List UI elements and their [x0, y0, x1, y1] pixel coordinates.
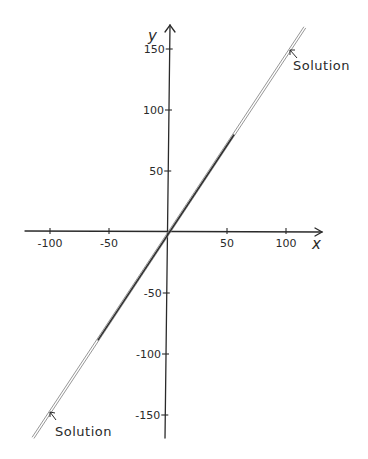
- annotation-bottom: Solution: [50, 412, 112, 439]
- x-tick-label: -100: [38, 237, 63, 250]
- y-tick-label: -50: [144, 287, 162, 300]
- y-tick-label: -100: [136, 348, 161, 361]
- x-axis: [25, 231, 322, 232]
- y-tick-label: 50: [149, 165, 163, 178]
- annotation-top-label: Solution: [293, 58, 350, 73]
- x-tick-label: -50: [100, 237, 118, 250]
- x-tick-label: 100: [276, 237, 297, 250]
- y-axis-label: y: [147, 27, 158, 45]
- annotation-bottom-label: Solution: [55, 424, 112, 439]
- annotation-arrow-icon: [290, 50, 297, 58]
- x-tick-label: 50: [220, 237, 234, 250]
- axes: [25, 25, 322, 438]
- annotation-top: Solution: [290, 50, 350, 73]
- y-tick-label: -150: [135, 409, 160, 422]
- annotation-arrow-icon: [50, 412, 56, 420]
- x-axis-label: x: [311, 235, 321, 253]
- solution-graph: -100-505010015010050-50-100-150 x y Solu…: [0, 0, 368, 459]
- y-tick-label: 100: [143, 104, 164, 117]
